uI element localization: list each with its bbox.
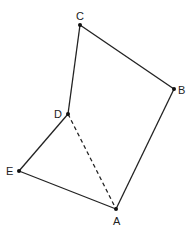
- edge-EA: [19, 171, 116, 209]
- edge-BC: [80, 25, 174, 89]
- edge-DE: [19, 114, 68, 171]
- edge-CD: [68, 25, 80, 114]
- label-E: E: [6, 165, 13, 177]
- label-C: C: [76, 10, 84, 22]
- edge-AB: [116, 89, 174, 209]
- geometry-diagram: ABCDE: [0, 0, 192, 237]
- point-B: [172, 87, 176, 91]
- point-A: [114, 207, 118, 211]
- edge-DA-dashed: [68, 114, 116, 209]
- point-D: [66, 112, 70, 116]
- point-E: [17, 169, 21, 173]
- label-A: A: [113, 215, 121, 227]
- label-B: B: [178, 84, 185, 96]
- point-C: [78, 23, 82, 27]
- label-D: D: [54, 108, 62, 120]
